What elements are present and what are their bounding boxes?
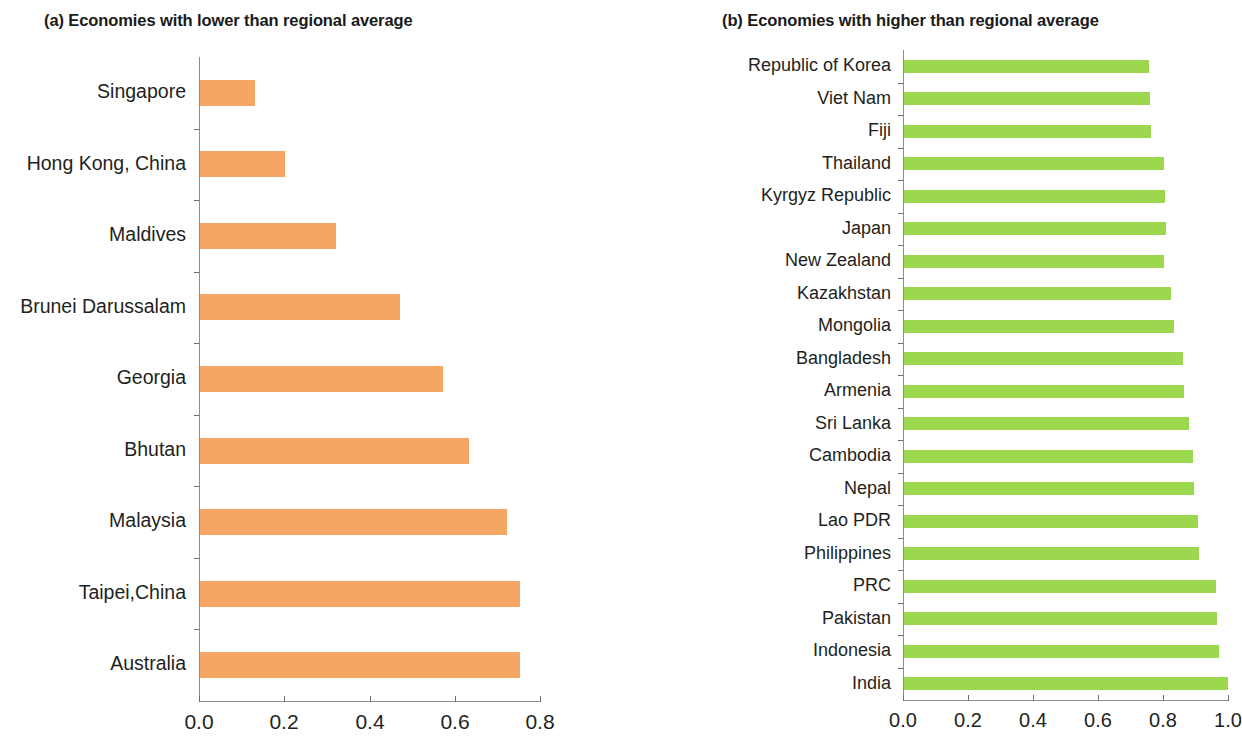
panel-b-plot-area: Republic of KoreaViet NamFijiThailandKyr…	[600, 0, 1242, 755]
bar	[200, 366, 443, 392]
category-label: Australia	[0, 654, 186, 674]
category-label: Indonesia	[600, 641, 891, 659]
category-label: PRC	[600, 576, 891, 594]
x-axis-tick-label: 0.8	[1130, 710, 1196, 730]
y-axis-tick	[898, 213, 903, 214]
x-axis-tick-label: 0.4	[1000, 710, 1066, 730]
bar	[904, 385, 1184, 398]
panel-b-higher-than-average: (b) Economies with higher than regional …	[600, 0, 1242, 755]
x-axis-tick	[1228, 695, 1229, 701]
y-axis-tick	[898, 538, 903, 539]
category-label: Maldives	[0, 225, 186, 245]
y-axis-tick	[898, 83, 903, 84]
y-axis-tick	[898, 570, 903, 571]
category-label: Georgia	[0, 368, 186, 388]
y-axis-tick	[194, 415, 199, 416]
x-axis-tick	[284, 696, 285, 702]
panel-a-plot-area: SingaporeHong Kong, ChinaMaldivesBrunei …	[0, 0, 600, 755]
y-axis-tick	[194, 343, 199, 344]
category-label: Republic of Korea	[600, 56, 891, 74]
bar	[904, 287, 1171, 300]
x-axis-tick-label: 0.0	[164, 711, 234, 732]
bar	[200, 509, 507, 535]
y-axis-tick	[898, 245, 903, 246]
y-axis-tick	[898, 310, 903, 311]
x-axis-line	[903, 700, 1229, 701]
category-label: Malaysia	[0, 511, 186, 531]
bar	[200, 438, 469, 464]
category-label: Bhutan	[0, 440, 186, 460]
panel-a-lower-than-average: (a) Economies with lower than regional a…	[0, 0, 600, 755]
x-axis-tick-label: 0.0	[870, 710, 936, 730]
y-axis-tick	[898, 408, 903, 409]
category-label: Thailand	[600, 154, 891, 172]
x-axis-tick	[455, 696, 456, 702]
category-label: Armenia	[600, 381, 891, 399]
y-axis-tick	[194, 272, 199, 273]
bar	[904, 222, 1166, 235]
category-label: Sri Lanka	[600, 414, 891, 432]
bar	[904, 580, 1216, 593]
y-axis-tick	[898, 668, 903, 669]
bar	[904, 255, 1164, 268]
category-label: India	[600, 674, 891, 692]
bar	[904, 60, 1149, 73]
y-axis-tick	[194, 200, 199, 201]
y-axis-tick	[194, 629, 199, 630]
x-axis-tick	[540, 696, 541, 702]
category-label: Mongolia	[600, 316, 891, 334]
category-label: Bangladesh	[600, 349, 891, 367]
x-axis-tick-label: 0.4	[335, 711, 405, 732]
bar	[904, 482, 1194, 495]
x-axis-tick-label: 1.0	[1195, 710, 1242, 730]
bar	[200, 294, 400, 320]
category-label: Lao PDR	[600, 511, 891, 529]
bar	[904, 157, 1164, 170]
bar	[904, 677, 1228, 690]
y-axis-tick	[898, 180, 903, 181]
bar	[904, 645, 1219, 658]
y-axis-tick	[194, 486, 199, 487]
bar	[904, 612, 1217, 625]
y-axis-tick	[194, 558, 199, 559]
y-axis-tick	[898, 473, 903, 474]
y-axis-tick	[898, 115, 903, 116]
category-label: Cambodia	[600, 446, 891, 464]
y-axis-tick	[898, 343, 903, 344]
y-axis-tick	[898, 440, 903, 441]
category-label: Kyrgyz Republic	[600, 186, 891, 204]
figure-container: (a) Economies with lower than regional a…	[0, 0, 1242, 755]
category-label: Japan	[600, 219, 891, 237]
x-axis-tick-label: 0.8	[505, 711, 575, 732]
category-label: New Zealand	[600, 251, 891, 269]
category-label: Hong Kong, China	[0, 154, 186, 174]
y-axis-tick	[898, 375, 903, 376]
bar	[200, 223, 336, 249]
y-axis-tick	[898, 148, 903, 149]
category-label: Fiji	[600, 121, 891, 139]
bar	[904, 352, 1183, 365]
y-axis-tick	[194, 129, 199, 130]
category-label: Pakistan	[600, 609, 891, 627]
category-label: Kazakhstan	[600, 284, 891, 302]
x-axis-tick	[1163, 695, 1164, 701]
x-axis-tick-label: 0.2	[935, 710, 1001, 730]
category-label: Taipei,China	[0, 583, 186, 603]
y-axis-tick	[898, 603, 903, 604]
category-label: Singapore	[0, 82, 186, 102]
category-label: Nepal	[600, 479, 891, 497]
y-axis-tick	[898, 505, 903, 506]
x-axis-tick	[968, 695, 969, 701]
x-axis-tick	[199, 696, 200, 702]
y-axis-line	[903, 50, 904, 700]
bar	[904, 190, 1165, 203]
x-axis-tick	[1098, 695, 1099, 701]
bar	[200, 151, 285, 177]
x-axis-tick	[370, 696, 371, 702]
bar	[904, 92, 1150, 105]
y-axis-tick	[898, 278, 903, 279]
bar	[904, 125, 1151, 138]
x-axis-tick	[903, 695, 904, 701]
category-label: Brunei Darussalam	[0, 297, 186, 317]
x-axis-tick-label: 0.2	[249, 711, 319, 732]
